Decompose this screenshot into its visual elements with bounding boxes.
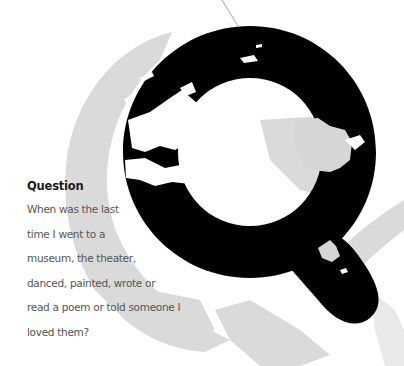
question-line: read a poem or told someone I [27,295,227,320]
question-card: Question When was the last time I went t… [0,0,404,366]
question-line: time I went to a [27,222,227,247]
question-text-block: Question When was the last time I went t… [27,175,227,344]
question-body: When was the last time I went to a museu… [27,197,227,344]
thin-stroke [222,0,238,26]
question-heading: Question [27,175,227,197]
question-line: When was the last [27,197,227,222]
question-line: danced, painted, wrote or [27,271,227,296]
question-line: museum, the theater, [27,246,227,271]
question-line: loved them? [27,320,227,345]
